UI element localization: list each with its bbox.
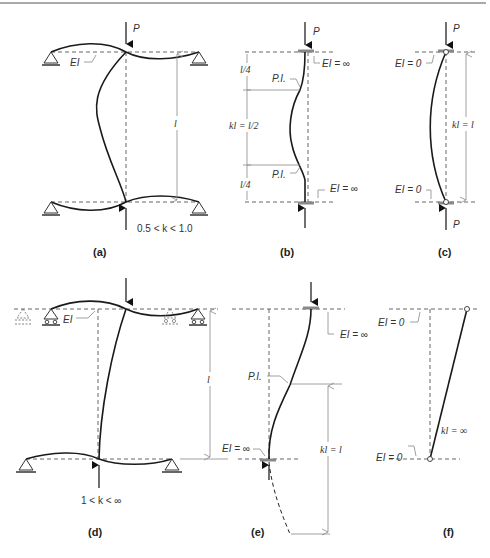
top-stiffness-label: EI = ∞ [322, 58, 350, 69]
pin-support-icon [44, 52, 58, 63]
effective-length-diagram: P EI l 0.5 < k < 1.0 (a) P [0, 0, 490, 558]
caption-e: (e) [251, 526, 265, 538]
pin-support-icon [192, 202, 206, 213]
bottom-stiffness-label: EI = ∞ [330, 183, 358, 194]
load-label-top: P [453, 23, 460, 34]
segment-mid-label: kl = l/2 [229, 120, 259, 131]
load-label-top: P [133, 23, 140, 34]
caption-f: (f) [443, 526, 454, 538]
top-stiffness-label: EI = 0 [378, 317, 405, 328]
displaced-support-icon [164, 309, 176, 318]
length-label: l [174, 118, 177, 129]
inflection-point-label: P.I. [248, 371, 262, 382]
pin-support-icon [19, 459, 33, 470]
panel-f: EI = 0 EI = 0 kl = ∞ (f) [376, 307, 478, 539]
panel-b: P l/4 kl = l/2 l/4 P.I. P.I. EI = ∞ EI =… [226, 22, 358, 258]
panel-e: P.I. kl = l EI = ∞ EI = ∞ (e) [222, 282, 368, 538]
top-stiffness-label: EI = ∞ [340, 329, 368, 340]
load-label-bottom: P [453, 219, 460, 230]
caption-b: (b) [280, 246, 294, 258]
panel-c: P kl = l EI = 0 EI = 0 P (c) [395, 22, 484, 258]
effective-length-label: kl = ∞ [441, 425, 467, 436]
top-stiffness-label: EI = 0 [395, 58, 422, 69]
beam-stiffness-label: EI [70, 57, 80, 68]
bottom-stiffness-label: EI = 0 [376, 452, 403, 463]
beam-stiffness-label: EI [63, 314, 73, 325]
bottom-stiffness-label: EI = 0 [395, 184, 422, 195]
effective-length-label: kl = l [452, 119, 474, 130]
caption-c: (c) [438, 246, 452, 258]
hinge-icon [465, 307, 470, 312]
inflection-point-bottom-label: P.I. [272, 169, 286, 180]
inflection-point-top-label: P.I. [272, 73, 286, 84]
displaced-support-icon [17, 309, 29, 318]
panel-a: P EI l 0.5 < k < 1.0 (a) [42, 22, 208, 258]
roller-support-icon [44, 309, 58, 319]
caption-a: (a) [93, 246, 107, 258]
k-range-label: 1 < k < ∞ [81, 495, 121, 506]
effective-length-label: kl = l [320, 444, 342, 455]
segment-top-label: l/4 [240, 64, 251, 75]
hinge-icon [444, 50, 449, 55]
k-range-label: 0.5 < k < 1.0 [137, 223, 193, 234]
hinge-icon [444, 200, 449, 205]
hinge-icon [428, 457, 433, 462]
panel-d: EI l 1 < k < ∞ (d) [14, 278, 228, 538]
segment-bottom-label: l/4 [240, 179, 251, 190]
bottom-stiffness-label: EI = ∞ [222, 443, 250, 454]
length-label: l [207, 374, 210, 385]
load-label-top: P [313, 26, 320, 37]
caption-d: (d) [88, 526, 102, 538]
